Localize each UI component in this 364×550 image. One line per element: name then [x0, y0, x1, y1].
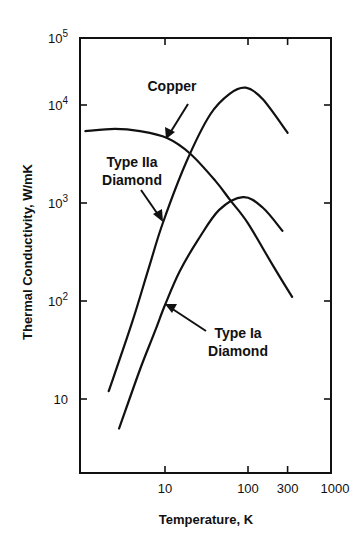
- thermal-conductivity-chart: 101003001000 10102103104105 Temperature,…: [0, 0, 364, 550]
- type-iia-label-line2: Diamond: [102, 172, 162, 188]
- x-axis-title: Temperature, K: [159, 512, 254, 527]
- plot-frame: [80, 38, 331, 473]
- copper-arrow-icon: [165, 104, 188, 139]
- type-ia-label-line1: Type Ia: [214, 325, 261, 341]
- type-ia-arrow-icon: [165, 304, 206, 331]
- type-iia-arrow-icon: [141, 190, 163, 222]
- y-tick-label: 10: [54, 392, 68, 407]
- y-axis-title: Thermal Conductivity, W/mK: [20, 163, 35, 340]
- y-tick-label: 104: [48, 95, 68, 113]
- x-tick-label: 300: [277, 481, 299, 496]
- curves: [85, 88, 292, 429]
- curve-type-ia-diamond: [119, 197, 282, 428]
- y-tick-label: 103: [48, 193, 68, 211]
- type-iia-label-line1: Type IIa: [106, 154, 157, 170]
- copper-label: Copper: [148, 78, 198, 94]
- x-tick-label: 10: [158, 481, 172, 496]
- x-tick-label: 1000: [321, 481, 350, 496]
- y-tick-label: 105: [48, 28, 68, 46]
- x-tick-label: 100: [237, 481, 259, 496]
- y-tick-label: 102: [48, 291, 68, 309]
- type-ia-label-line2: Diamond: [208, 343, 268, 359]
